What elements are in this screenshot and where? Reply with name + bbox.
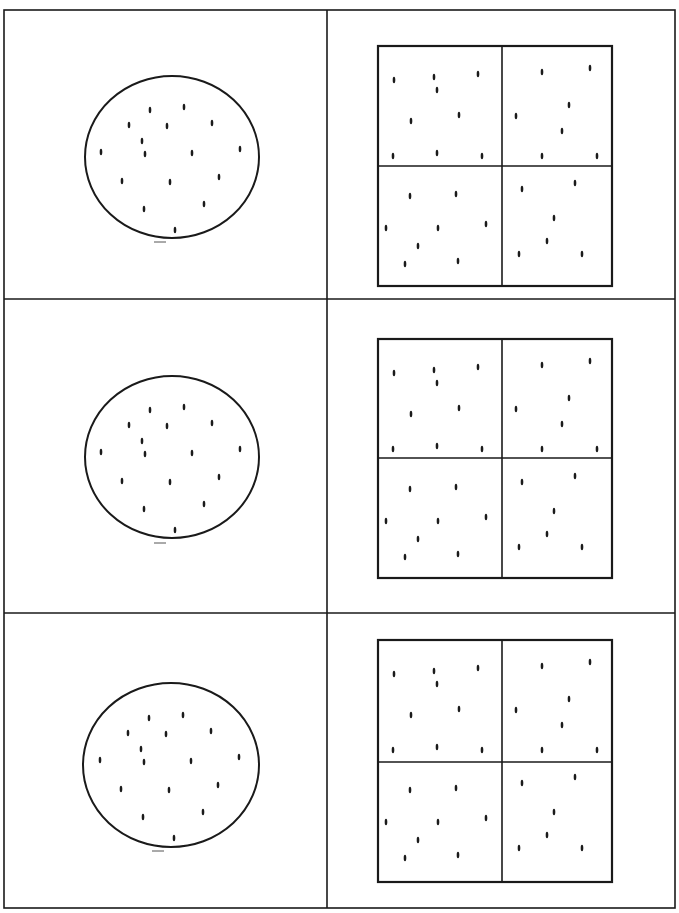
quadrant-dot-top-right [515, 113, 518, 119]
circle-dot [165, 731, 168, 737]
quadrant-dot-top-left [477, 364, 480, 370]
quadrant-dot-top-right [596, 446, 599, 452]
quadrant-dot-top-left [392, 446, 395, 452]
circle-dot [149, 107, 152, 113]
quadrant-dot-top-left [410, 118, 413, 124]
circle-dot [239, 146, 242, 152]
circle-dot [149, 407, 152, 413]
quadrant-dot-bottom-left [485, 815, 488, 821]
circle-dot [218, 474, 221, 480]
quadrant-dot-top-right [561, 128, 564, 134]
quadrant-dot-bottom-right [581, 845, 584, 851]
quadrant-dot-top-right [541, 663, 544, 669]
quadrant-dot-top-right [541, 362, 544, 368]
table-outer-border [4, 10, 675, 908]
circle-dot [169, 479, 172, 485]
quadrant-dot-bottom-right [518, 251, 521, 257]
quadrant-dot-top-left [477, 71, 480, 77]
quadrant-dot-top-left [393, 671, 396, 677]
quadrant-dot-top-right [561, 421, 564, 427]
circle-dot [183, 404, 186, 410]
quadrant-dot-bottom-left [437, 819, 440, 825]
quadrant-dot-top-left [392, 153, 395, 159]
quadrant-dot-top-left [433, 668, 436, 674]
circle-dot [143, 506, 146, 512]
quadrant-dot-bottom-right [546, 238, 549, 244]
quadrant-dot-bottom-right [546, 531, 549, 537]
circle-dot [166, 123, 169, 129]
quadrant-dot-bottom-right [574, 774, 577, 780]
circle-dot [140, 746, 143, 752]
circle-dot [191, 150, 194, 156]
quadrant-dot-bottom-left [455, 191, 458, 197]
quadrant-dot-top-right [541, 69, 544, 75]
circle-dot [144, 451, 147, 457]
circle-dot [128, 122, 131, 128]
circle-dot [121, 178, 124, 184]
circle-dot [166, 423, 169, 429]
circle-dot [121, 478, 124, 484]
circle-dot [211, 420, 214, 426]
quadrant-dot-bottom-left [404, 261, 407, 267]
dotted-circle [83, 683, 259, 847]
quadrant-dot-bottom-left [455, 785, 458, 791]
quadrant-dot-bottom-left [404, 554, 407, 560]
quadrant-dot-top-right [541, 446, 544, 452]
circle-dot [239, 446, 242, 452]
quadrant-dot-bottom-left [417, 837, 420, 843]
quadrant-dot-top-right [589, 659, 592, 665]
circle-dot [143, 206, 146, 212]
circle-dot [210, 728, 213, 734]
circle-dot [203, 201, 206, 207]
dotted-square [378, 640, 612, 882]
dotted-circle [85, 76, 259, 238]
quadrant-dot-bottom-left [437, 518, 440, 524]
quadrant-dot-top-left [436, 744, 439, 750]
circle-dot [128, 422, 131, 428]
circle-dot [148, 715, 151, 721]
circle-dot [191, 450, 194, 456]
quadrant-dot-top-left [481, 747, 484, 753]
quadrant-dot-top-right [515, 707, 518, 713]
circle-dot [202, 809, 205, 815]
dotted-circle [85, 376, 259, 538]
circle-dot [169, 179, 172, 185]
quadrant-dot-top-right [568, 696, 571, 702]
quadrant-dot-top-left [481, 153, 484, 159]
quadrant-dot-bottom-left [485, 221, 488, 227]
quadrant-dot-top-left [433, 74, 436, 80]
circle-dot [143, 759, 146, 765]
quadrant-dot-bottom-right [553, 215, 556, 221]
quadrant-dot-top-right [561, 722, 564, 728]
quadrant-dot-bottom-left [409, 193, 412, 199]
circle-dot [127, 730, 130, 736]
quadrant-dot-top-left [458, 706, 461, 712]
circle-dot [141, 438, 144, 444]
quadrant-dot-top-left [436, 681, 439, 687]
quadrant-dot-top-left [477, 665, 480, 671]
quadrant-dot-bottom-right [518, 845, 521, 851]
circle-dot [100, 449, 103, 455]
quadrant-dot-bottom-right [521, 186, 524, 192]
quadrant-dot-bottom-right [546, 832, 549, 838]
quadrant-dot-top-right [596, 153, 599, 159]
quadrant-dot-top-left [392, 747, 395, 753]
quadrant-dot-top-right [596, 747, 599, 753]
circle-dot [183, 104, 186, 110]
quadrant-dot-bottom-left [457, 551, 460, 557]
quadrant-dot-bottom-left [409, 787, 412, 793]
quadrant-dot-top-left [410, 712, 413, 718]
circle-dot [190, 758, 193, 764]
quadrant-dot-top-right [541, 153, 544, 159]
quadrant-dot-top-right [541, 747, 544, 753]
circle-dot [141, 138, 144, 144]
quadrant-dot-bottom-left [409, 486, 412, 492]
circle-dot [173, 835, 176, 841]
quadrant-dot-bottom-right [574, 180, 577, 186]
circle-dot [168, 787, 171, 793]
quadrant-dot-top-right [515, 406, 518, 412]
quadrant-dot-bottom-right [581, 251, 584, 257]
quadrant-dot-bottom-left [404, 855, 407, 861]
circle-dot [174, 527, 177, 533]
quadrant-dot-bottom-right [574, 473, 577, 479]
